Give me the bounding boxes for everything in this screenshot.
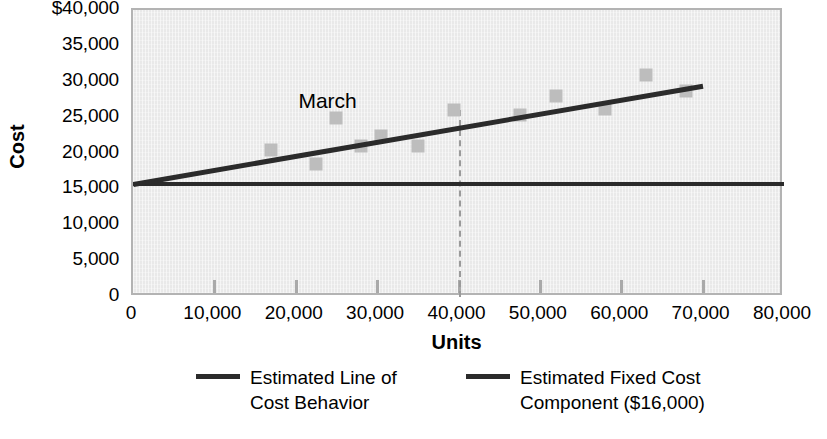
plot-area: March xyxy=(131,8,782,295)
estimated-cost-behavior-line xyxy=(133,84,703,187)
data-point-marker xyxy=(330,111,343,124)
legend-item: Estimated Line of Cost Behavior xyxy=(196,365,397,415)
data-point-marker xyxy=(639,68,652,81)
data-point-marker xyxy=(448,104,461,117)
x-axis-tick-label: 70,000 xyxy=(672,302,730,324)
x-axis-title: Units xyxy=(131,331,782,354)
y-axis-tick-label: $40,000 xyxy=(52,0,119,17)
legend-line-swatch xyxy=(196,374,240,379)
march-annotation-label: March xyxy=(298,90,356,111)
y-axis-tick-label: 20,000 xyxy=(62,142,119,161)
x-axis-tick-mark xyxy=(539,280,542,293)
x-axis-tick-label: 50,000 xyxy=(509,302,567,324)
data-point-marker xyxy=(310,158,323,171)
plot-background-texture xyxy=(133,10,780,293)
x-axis-tick-mark xyxy=(620,280,623,293)
x-axis-tick-label: 10,000 xyxy=(183,302,241,324)
x-axis-tick-mark xyxy=(295,280,298,293)
x-axis-tick-mark xyxy=(376,280,379,293)
y-axis-tick-label: 25,000 xyxy=(62,106,119,125)
x-axis-tick-label: 40,000 xyxy=(427,302,485,324)
x-axis-tick-mark xyxy=(702,280,705,293)
legend-label: Estimated Fixed Cost Component ($16,000) xyxy=(520,365,705,415)
x-axis-tick-labels: 010,00020,00030,00040,00050,00060,00070,… xyxy=(0,302,827,328)
x-axis-tick-label: 30,000 xyxy=(346,302,404,324)
data-point-marker xyxy=(265,143,278,156)
x-axis-tick-label: 0 xyxy=(126,302,137,324)
x-axis-tick-mark xyxy=(213,280,216,293)
y-axis-tick-label: 5,000 xyxy=(72,249,119,268)
y-axis-tick-label: 30,000 xyxy=(62,70,119,89)
legend-label: Estimated Line of Cost Behavior xyxy=(250,365,397,415)
estimated-fixed-cost-line xyxy=(133,182,784,186)
reference-line-40000-units xyxy=(459,110,461,297)
y-axis-title: Cost xyxy=(6,112,29,182)
data-point-marker xyxy=(411,140,424,153)
y-axis-tick-label: 35,000 xyxy=(62,34,119,53)
x-axis-tick-label: 60,000 xyxy=(590,302,648,324)
y-axis-tick-label: 10,000 xyxy=(62,213,119,232)
x-axis-tick-label: 80,000 xyxy=(753,302,811,324)
cost-behavior-chart: $40,00035,00030,00025,00020,00015,00010,… xyxy=(0,0,827,439)
chart-legend: Estimated Line of Cost BehaviorEstimated… xyxy=(0,365,827,435)
legend-line-swatch xyxy=(466,374,510,379)
data-point-marker xyxy=(550,90,563,103)
legend-item: Estimated Fixed Cost Component ($16,000) xyxy=(466,365,705,415)
x-axis-tick-label: 20,000 xyxy=(265,302,323,324)
y-axis-tick-label: 15,000 xyxy=(62,177,119,196)
